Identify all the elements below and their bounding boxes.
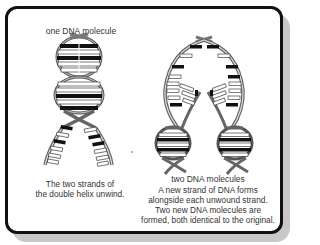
left-top-label: one DNA molecule (42, 26, 120, 37)
left-caption-line-2: the double helix unwind. (28, 189, 132, 200)
right-caption-line-4: formed, both identical to the original. (130, 215, 286, 226)
dna-replicated-helices-icon (156, 37, 252, 174)
stray-dot (131, 151, 133, 153)
dna-unwinding-helix-icon (45, 34, 112, 166)
right-title-label: two DNA molecules (160, 174, 256, 185)
